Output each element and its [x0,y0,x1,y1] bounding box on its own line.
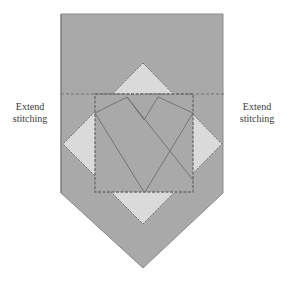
extend-stitching-label-right: Extend stitching [229,101,285,125]
pennant-diagram [0,0,304,288]
extend-stitching-label-left: Extend stitching [2,101,58,125]
inner-square [95,94,193,192]
label-left-line2: stitching [2,113,58,125]
label-right-line1: Extend [229,101,285,113]
label-right-line2: stitching [229,113,285,125]
label-left-line1: Extend [2,101,58,113]
